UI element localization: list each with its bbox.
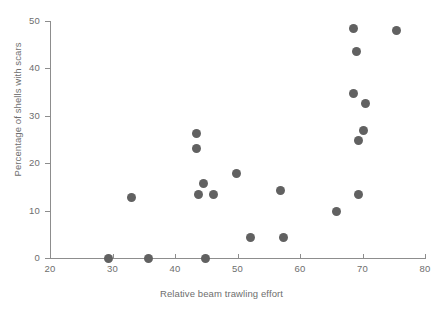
scatter-point [201, 254, 210, 263]
x-tick-mark [425, 254, 426, 259]
y-tick-label: 50 [14, 15, 40, 26]
scatter-point [104, 254, 113, 263]
scatter-point [352, 47, 361, 56]
y-axis-title: Percentage of shells with scars [12, 30, 23, 190]
scatter-point [144, 254, 153, 263]
x-tick-label: 80 [410, 263, 440, 274]
scatter-point [127, 193, 136, 202]
scatter-point [332, 207, 341, 216]
scatter-point [349, 89, 358, 98]
scatter-point [192, 129, 201, 138]
x-tick-label: 60 [285, 263, 315, 274]
scatter-point [199, 179, 208, 188]
x-tick-label: 20 [35, 263, 65, 274]
scatter-point [192, 144, 201, 153]
scatter-point [246, 233, 255, 242]
plot-area [50, 21, 425, 258]
x-tick-label: 40 [160, 263, 190, 274]
x-axis-title: Relative beam trawling effort [0, 288, 443, 299]
y-tick-label: 0 [14, 252, 40, 263]
scatter-point [194, 190, 203, 199]
scatter-point [209, 190, 218, 199]
x-tick-label: 50 [223, 263, 253, 274]
scatter-point [354, 190, 363, 199]
x-tick-label: 30 [98, 263, 128, 274]
y-tick-label: 10 [14, 205, 40, 216]
scatter-point [279, 233, 288, 242]
x-tick-label: 70 [348, 263, 378, 274]
scatter-point [392, 26, 401, 35]
scatter-point [361, 99, 370, 108]
scatter-point [232, 169, 241, 178]
scatter-point [349, 24, 358, 33]
scatter-point [276, 186, 285, 195]
scatter-chart-figure: 01020304050 20304050607080 Percentage of… [0, 0, 443, 312]
